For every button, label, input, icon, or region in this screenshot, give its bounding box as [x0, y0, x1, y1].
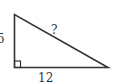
triangle-figure [0, 0, 117, 84]
right-angle-marker [15, 61, 21, 68]
horizontal-leg-label: 12 [38, 72, 53, 84]
hypotenuse-label: ? [51, 24, 57, 36]
right-triangle-diagram: 5 ? 12 [0, 0, 117, 84]
triangle-shape [15, 15, 109, 68]
vertical-leg-label: 5 [0, 33, 5, 45]
